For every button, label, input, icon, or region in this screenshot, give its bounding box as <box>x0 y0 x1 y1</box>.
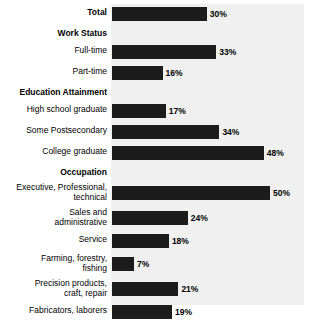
bar <box>112 282 178 296</box>
bar-category-label: Sales and administrative <box>0 208 107 227</box>
group-header-row: Work Status <box>0 25 309 42</box>
bar-and-value: 24% <box>112 211 208 225</box>
chart-rows: Total30%Work StatusFull-time33%Part-time… <box>0 4 309 323</box>
bar-row: Fabricators, laborers19% <box>0 302 309 323</box>
group-header-label: Work Status <box>0 29 107 39</box>
bar-row: Full-time33% <box>0 42 309 63</box>
bar-row: College graduate48% <box>0 143 309 164</box>
bar-category-label: Executive, Professional, technical <box>0 183 107 202</box>
bar-row: Sales and administrative24% <box>0 206 309 231</box>
bar-category-label: Service <box>0 235 107 245</box>
bar <box>112 104 166 118</box>
bar-category-label: Some Postsecondary <box>0 126 107 136</box>
bar-value-label: 17% <box>169 104 186 118</box>
bar-value-label: 24% <box>191 211 208 225</box>
bar <box>112 211 188 225</box>
bar-category-label: Fabricators, laborers <box>0 306 107 316</box>
group-header-row: Education Attainment <box>0 84 309 101</box>
group-header-row: Occupation <box>0 164 309 181</box>
bar-category-label: Part-time <box>0 67 107 77</box>
bar-category-label: Farming, forestry, fishing <box>0 254 107 273</box>
bar-category-label: Full-time <box>0 46 107 56</box>
bar-value-label: 21% <box>181 282 198 296</box>
bar-value-label: 19% <box>175 305 192 319</box>
bar-and-value: 30% <box>112 7 227 21</box>
bar-value-label: 48% <box>267 146 284 160</box>
bar <box>112 257 134 271</box>
bar-and-value: 50% <box>112 186 290 200</box>
bar <box>112 125 219 139</box>
bar <box>112 186 270 200</box>
bar-and-value: 34% <box>112 125 239 139</box>
bar-value-label: 16% <box>166 66 183 80</box>
bar-value-label: 7% <box>137 257 149 271</box>
bar-row: Total30% <box>0 4 309 25</box>
bar-value-label: 50% <box>273 186 290 200</box>
bar-row: Service18% <box>0 231 309 252</box>
group-header-label: Occupation <box>0 168 107 178</box>
bar-row: Part-time16% <box>0 63 309 84</box>
bar-and-value: 17% <box>112 104 186 118</box>
bar-and-value: 18% <box>112 234 189 248</box>
bar-and-value: 48% <box>112 146 284 160</box>
bar-row: High school graduate17% <box>0 101 309 122</box>
bar-and-value: 16% <box>112 66 183 80</box>
bar-and-value: 7% <box>112 257 149 271</box>
bar-row: Some Postsecondary34% <box>0 122 309 143</box>
bar <box>112 66 163 80</box>
bar-value-label: 34% <box>222 125 239 139</box>
bar-row: Precision products, craft, repair21% <box>0 277 309 302</box>
bar-value-label: 33% <box>219 45 236 59</box>
bar <box>112 45 216 59</box>
bar-value-label: 18% <box>172 234 189 248</box>
bar <box>112 146 264 160</box>
group-header-label: Education Attainment <box>0 88 107 98</box>
bar <box>112 305 172 319</box>
bar-row: Farming, forestry, fishing7% <box>0 252 309 277</box>
bar-category-label: College graduate <box>0 147 107 157</box>
bar-category-label: Precision products, craft, repair <box>0 279 107 298</box>
bar-row: Executive, Professional, technical50% <box>0 181 309 206</box>
bar-value-label: 30% <box>210 7 227 21</box>
bar-and-value: 19% <box>112 305 192 319</box>
bar-category-label: High school graduate <box>0 105 107 115</box>
bar-and-value: 33% <box>112 45 236 59</box>
bar <box>112 7 207 21</box>
bar-and-value: 21% <box>112 282 198 296</box>
bar-category-label: Total <box>0 8 107 18</box>
bar <box>112 234 169 248</box>
